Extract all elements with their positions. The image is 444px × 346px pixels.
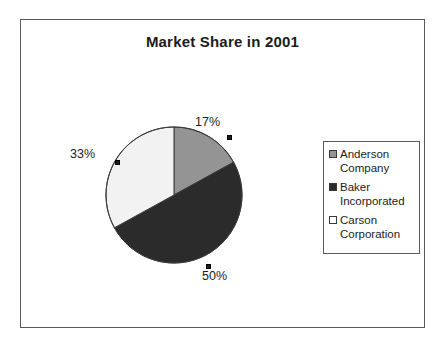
slice-label-carson: 33% <box>70 147 95 161</box>
legend-item-baker: Baker Incorporated <box>329 180 415 208</box>
chart-frame: Market Share in 2001 17% 50% 33% Anderso… <box>20 19 425 328</box>
pie-slices <box>106 127 242 263</box>
legend-swatch-icon-anderson <box>329 150 337 158</box>
legend-label-carson: Carson Corporation <box>340 213 415 241</box>
slice-label-baker: 50% <box>202 269 227 283</box>
slice-label-anderson: 17% <box>195 115 220 129</box>
legend-label-baker: Baker Incorporated <box>340 180 415 208</box>
legend-swatch-icon-carson <box>329 216 337 224</box>
slice-marker-baker <box>206 264 211 269</box>
legend-item-anderson: Anderson Company <box>329 147 415 175</box>
legend-label-anderson: Anderson Company <box>340 147 415 175</box>
slice-marker-anderson <box>227 135 232 140</box>
chart-legend: Anderson Company Baker Incorporated Cars… <box>323 141 420 254</box>
slice-marker-carson <box>115 160 120 165</box>
legend-item-carson: Carson Corporation <box>329 213 415 241</box>
legend-swatch-icon-baker <box>329 183 337 191</box>
